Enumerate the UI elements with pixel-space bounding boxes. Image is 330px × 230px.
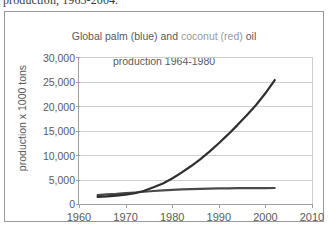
x-tick-label-1980: 1980 [149, 211, 195, 223]
chart-title-part-coconut: coconut (red) [181, 30, 243, 42]
x-tick-mark-1980 [172, 204, 173, 208]
y-tick-label-10000: 10,000 [5, 150, 75, 162]
x-tick-mark-1990 [219, 204, 220, 208]
chart-title-part-after: oil [243, 30, 256, 42]
cut-off-caption-strip: production, 1963-2004. [0, 0, 330, 10]
series-line-palm [98, 80, 275, 197]
x-tick-mark-2000 [265, 204, 266, 208]
x-tick-label-2000: 2000 [242, 211, 288, 223]
y-tick-label-15000: 15,000 [5, 125, 75, 137]
plot-right-edge [312, 57, 313, 204]
x-tick-mark-1970 [126, 204, 127, 208]
y-tick-label-25000: 25,000 [5, 76, 75, 88]
y-tick-label-20000: 20,000 [5, 101, 75, 113]
plot-area: 1960 1970 1980 1990 2000 2010 [78, 57, 312, 205]
x-tick-label-1960: 1960 [56, 211, 102, 223]
y-tick-label-0: 0 [5, 198, 75, 210]
chart-frame: Global palm (blue) and coconut (red) oil… [4, 11, 324, 222]
x-tick-mark-2010 [312, 204, 313, 208]
y-axis-title: production x 1000 tons [16, 43, 28, 193]
y-tick-label-30000: 30,000 [5, 52, 75, 64]
data-curves [79, 57, 312, 204]
x-tick-label-1990: 1990 [196, 211, 242, 223]
x-tick-label-2010: 2010 [289, 211, 330, 223]
cut-off-caption-text: production, 1963-2004. [3, 0, 118, 8]
chart-title-part-before: Global palm (blue) and [72, 30, 181, 42]
x-tick-mark-1960 [79, 204, 80, 208]
y-tick-label-5000: 5,000 [5, 174, 75, 186]
x-tick-label-1970: 1970 [103, 211, 149, 223]
